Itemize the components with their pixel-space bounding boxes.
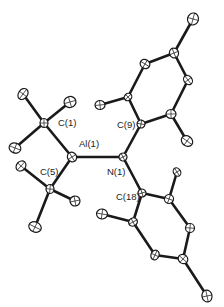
ortep-diagram: C(1) Al(1) C(5) N(1) C(9) C(18): [0, 0, 224, 307]
atom-c5c-icon: [27, 220, 43, 235]
bond-c1-c1a: [23, 94, 44, 123]
atom-c13-icon: [182, 74, 194, 87]
atom-c14m-icon: [179, 133, 195, 148]
atom-label-c1: C(1): [58, 117, 76, 128]
bond-c22-c23: [133, 222, 155, 255]
bond-c1-al1: [44, 123, 72, 157]
atom-c5-icon: [46, 184, 55, 194]
bond-c5-c5c: [35, 189, 50, 227]
atom-label-c9: C(9): [117, 119, 135, 130]
atom-c10-icon: [123, 92, 134, 103]
atom-c11-icon: [138, 58, 151, 71]
atom-label-al1: Al(1): [79, 138, 99, 149]
atom-c12-icon: [168, 47, 180, 60]
atom-c14-icon: [166, 109, 176, 118]
bond-c21-c21m: [183, 259, 207, 296]
atom-c20-icon: [185, 223, 195, 233]
molecule-structure: C(1) Al(1) C(5) N(1) C(9) C(18): [0, 0, 224, 307]
atom-c12m-icon: [186, 12, 200, 26]
atom-label-n1: N(1): [107, 166, 125, 177]
bond-c10-c11: [128, 64, 145, 97]
bond-c13-c14: [171, 80, 188, 114]
atom-c1-icon: [40, 119, 48, 128]
bonds-layer: [15, 19, 207, 296]
atom-c10m-icon: [95, 100, 106, 110]
atom-c5b-icon: [69, 195, 81, 207]
atom-label-c18: C(18): [116, 191, 140, 202]
atom-c21-icon: [176, 252, 189, 265]
atom-c23m-icon: [96, 208, 108, 220]
atom-label-c5: C(5): [40, 166, 58, 177]
atom-n1-icon: [118, 152, 129, 163]
atom-c19m-icon: [172, 166, 183, 177]
bond-c19-c20: [169, 199, 190, 228]
atom-c9-icon: [136, 119, 145, 128]
bond-n1-c18: [123, 157, 142, 193]
